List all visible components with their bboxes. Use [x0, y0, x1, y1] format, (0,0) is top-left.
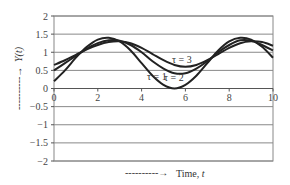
annotation-tau-3: τ = 3 — [172, 54, 192, 65]
y-tick-label: −1.5 — [30, 137, 48, 148]
x-axis-label: Time, t — [176, 168, 205, 179]
y-tick-label: 2 — [43, 11, 48, 22]
y-tick-label: 0.5 — [36, 65, 49, 76]
x-tick-label: 4 — [139, 92, 144, 103]
x-axis-arrow: ----------→ — [125, 167, 168, 178]
y-axis-label: Y(t) — [13, 46, 25, 62]
y-tick-label: −2 — [37, 156, 48, 167]
x-tick-label: 10 — [268, 92, 278, 103]
x-tick-label: 2 — [95, 92, 100, 103]
chart-root: 21.510.50−0.5−1−1.5−20246810τ = 1τ = 2τ … — [0, 0, 290, 185]
y-tick-label: 1.5 — [36, 29, 49, 40]
annotation-tau-2: τ = 2 — [164, 72, 184, 83]
x-tick-label: 0 — [52, 92, 57, 103]
y-axis-label-group: ----------→Y(t) — [13, 46, 25, 110]
y-axis-arrow: ----------→ — [13, 67, 24, 110]
y-tick-label: 1 — [43, 47, 48, 58]
y-tick-label: 0 — [43, 83, 48, 94]
line-chart: 21.510.50−0.5−1−1.5−20246810τ = 1τ = 2τ … — [0, 0, 290, 185]
x-tick-label: 6 — [183, 92, 188, 103]
y-tick-label: −1 — [37, 119, 48, 130]
x-tick-label: 8 — [227, 92, 232, 103]
y-tick-label: −0.5 — [30, 101, 48, 112]
